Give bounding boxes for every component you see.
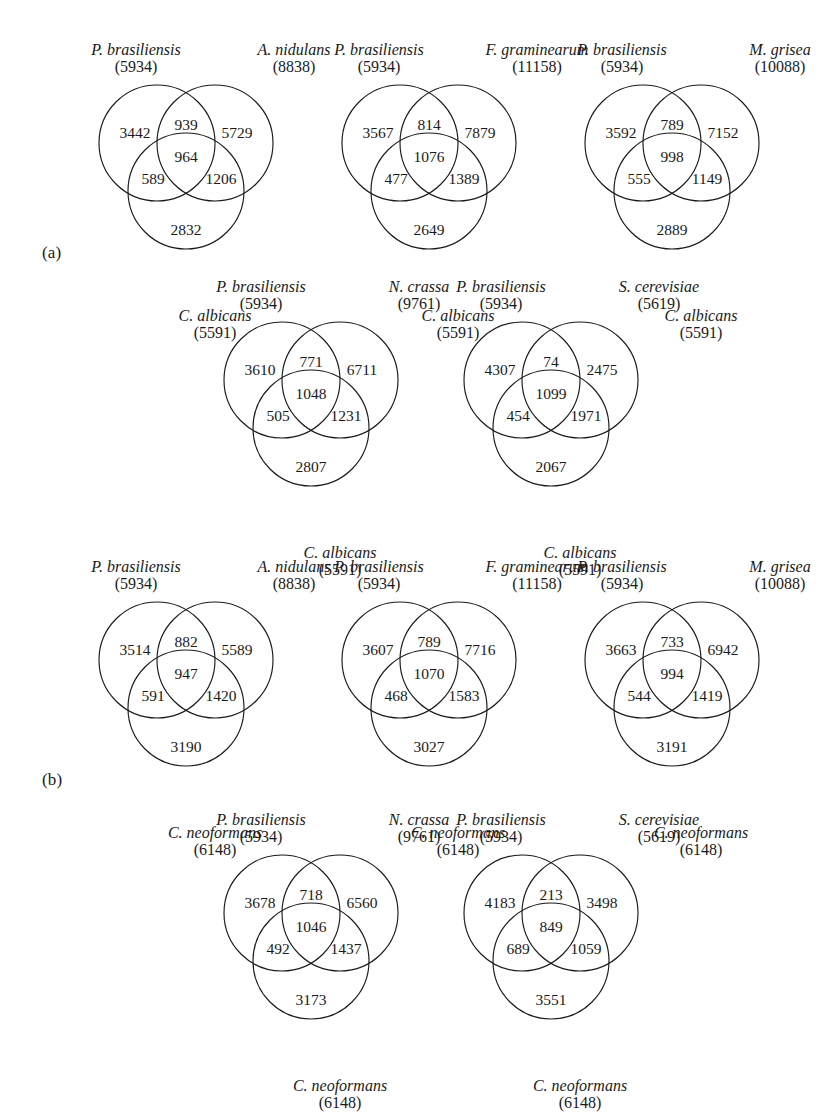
venn-region-bottom-only: 3190	[171, 738, 202, 756]
venn-region-right-bottom: 1420	[206, 687, 237, 705]
venn-diagram-a-2-1: P. brasiliensis(5934)N. crassa(9761)C. a…	[222, 322, 458, 558]
set-label-top-left: P. brasiliensis(5934)	[294, 558, 464, 593]
species-name: M. grisea	[695, 41, 824, 58]
venn-region-right-only: 5729	[222, 124, 253, 142]
species-total: (5619)	[574, 295, 744, 312]
species-total: (6148)	[495, 1094, 665, 1111]
venn-region-left-right: 733	[660, 633, 683, 651]
venn-region-left-bottom: 589	[141, 170, 164, 188]
venn-region-right-bottom: 1059	[571, 940, 602, 958]
species-total: (6148)	[255, 1094, 425, 1111]
set-label-top-left: P. brasiliensis(5934)	[416, 278, 586, 313]
venn-region-center: 994	[660, 665, 683, 683]
venn-region-bottom-only: 3027	[414, 738, 445, 756]
species-name: S. cerevisiae	[574, 811, 744, 828]
venn-region-left-bottom: 492	[266, 940, 289, 958]
venn-region-right-bottom: 1231	[331, 407, 362, 425]
venn-region-center: 1076	[414, 148, 445, 166]
venn-region-right-only: 7152	[708, 124, 739, 142]
venn-region-center: 998	[660, 148, 683, 166]
venn-region-center: 849	[539, 918, 562, 936]
venn-region-left-bottom: 454	[506, 407, 529, 425]
venn-region-center: 947	[174, 665, 197, 683]
venn-region-bottom-only: 2889	[657, 221, 688, 239]
venn-region-left-right: 213	[539, 886, 562, 904]
set-label-top-right: S. cerevisiae(5619)	[574, 811, 744, 846]
species-total: (5934)	[416, 295, 586, 312]
venn-region-left-only: 3567	[363, 124, 394, 142]
venn-region-right-bottom: 1419	[692, 687, 723, 705]
venn-region-left-only: 3607	[363, 641, 394, 659]
species-total: (10088)	[695, 575, 824, 592]
venn-region-right-only: 7716	[465, 641, 496, 659]
venn-diagram-b-2-2: P. brasiliensis(5934)S. cerevisiae(5619)…	[462, 855, 698, 1091]
venn-region-bottom-only: 2807	[296, 458, 327, 476]
set-label-top-right: S. cerevisiae(5619)	[574, 278, 744, 313]
venn-region-bottom-only: 2649	[414, 221, 445, 239]
venn-region-right-bottom: 1149	[692, 170, 722, 188]
species-name: P. brasiliensis	[537, 558, 707, 575]
set-label-bottom: C. neoformans(6148)	[255, 1077, 425, 1112]
venn-diagram-a-2-2: P. brasiliensis(5934)S. cerevisiae(5619)…	[462, 322, 698, 558]
venn-region-left-right: 771	[299, 353, 322, 371]
species-name: C. neoformans	[495, 1077, 665, 1094]
venn-region-left-right: 939	[174, 116, 197, 134]
venn-region-left-right: 814	[417, 116, 440, 134]
set-label-top-left: P. brasiliensis(5934)	[51, 41, 221, 76]
set-label-bottom: C. neoformans(6148)	[495, 1077, 665, 1112]
venn-region-right-only: 3498	[587, 894, 618, 912]
species-total: (5934)	[537, 575, 707, 592]
venn-region-left-bottom: 591	[141, 687, 164, 705]
species-name: P. brasiliensis	[51, 41, 221, 58]
set-label-top-left: P. brasiliensis(5934)	[51, 558, 221, 593]
venn-region-right-only: 6560	[347, 894, 378, 912]
venn-region-right-bottom: 1971	[571, 407, 602, 425]
species-total: (5934)	[51, 58, 221, 75]
species-total: (5934)	[294, 58, 464, 75]
venn-diagram-b-2-1: P. brasiliensis(5934)N. crassa(9761)C. n…	[222, 855, 458, 1091]
species-total: (5934)	[176, 295, 346, 312]
venn-region-left-bottom: 468	[384, 687, 407, 705]
species-total: (5934)	[176, 828, 346, 845]
species-total: (5934)	[416, 828, 586, 845]
venn-region-left-only: 3610	[245, 361, 276, 379]
venn-region-left-bottom: 689	[506, 940, 529, 958]
species-total: (5619)	[574, 828, 744, 845]
set-label-top-left: P. brasiliensis(5934)	[416, 811, 586, 846]
species-name: P. brasiliensis	[537, 41, 707, 58]
venn-region-bottom-only: 2067	[536, 458, 567, 476]
venn-diagram-b-1-3: P. brasiliensis(5934)M. grisea(10088)C. …	[583, 602, 819, 838]
venn-region-left-right: 882	[174, 633, 197, 651]
venn-region-right-only: 7879	[465, 124, 496, 142]
set-label-top-left: P. brasiliensis(5934)	[537, 558, 707, 593]
species-name: C. neoformans	[255, 1077, 425, 1094]
venn-region-left-only: 3678	[245, 894, 276, 912]
species-name: S. cerevisiae	[574, 278, 744, 295]
set-label-top-left: P. brasiliensis(5934)	[537, 41, 707, 76]
venn-region-left-bottom: 544	[627, 687, 650, 705]
venn-region-center: 964	[174, 148, 197, 166]
species-name: P. brasiliensis	[51, 558, 221, 575]
species-total: (5934)	[294, 575, 464, 592]
panel-label-a: (a)	[42, 243, 61, 263]
venn-region-left-right: 74	[543, 353, 559, 371]
venn-region-bottom-only: 3173	[296, 991, 327, 1009]
venn-region-left-right: 789	[660, 116, 683, 134]
venn-region-bottom-only: 3551	[536, 991, 567, 1009]
venn-region-left-only: 3592	[606, 124, 637, 142]
venn-region-left-bottom: 477	[384, 170, 407, 188]
venn-region-left-only: 4307	[485, 361, 516, 379]
species-name: P. brasiliensis	[176, 811, 346, 828]
species-total: (10088)	[695, 58, 824, 75]
venn-region-right-bottom: 1206	[206, 170, 237, 188]
venn-region-center: 1048	[296, 385, 327, 403]
species-name: P. brasiliensis	[294, 558, 464, 575]
venn-region-center: 1046	[296, 918, 327, 936]
venn-diagram-b-1-2: P. brasiliensis(5934)F. graminearum(1115…	[340, 602, 576, 838]
species-name: P. brasiliensis	[294, 41, 464, 58]
venn-region-left-bottom: 505	[266, 407, 289, 425]
venn-region-right-only: 5589	[222, 641, 253, 659]
species-name: P. brasiliensis	[416, 811, 586, 828]
set-label-top-left: P. brasiliensis(5934)	[176, 278, 346, 313]
